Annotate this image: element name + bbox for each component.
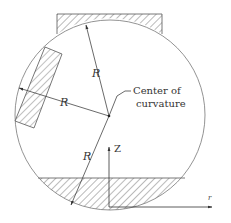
diagram-canvas: R R R Center of curvature Z r <box>0 0 231 223</box>
top-block <box>57 14 162 34</box>
z-axis-label: Z <box>114 143 121 154</box>
radius-label-top: R <box>91 67 100 80</box>
radius-label-bottom: R <box>82 150 91 163</box>
left-block <box>15 47 62 128</box>
r-axis-label: r <box>208 194 212 202</box>
center-leader-line <box>109 91 131 116</box>
bottom-segment <box>10 178 220 218</box>
diagram-svg: R R R Center of curvature Z r <box>0 0 231 223</box>
center-of-curvature-point <box>108 115 111 118</box>
radius-label-left: R <box>59 96 68 109</box>
center-label-line1: Center of <box>133 85 182 96</box>
center-label-line2: curvature <box>136 98 186 109</box>
